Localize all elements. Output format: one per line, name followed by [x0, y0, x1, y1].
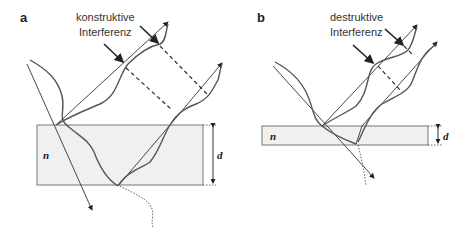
- annotation-line2-a: Interferenz: [79, 26, 132, 38]
- wavefront-line-1-a: [160, 46, 208, 95]
- refractive-index-label-b: n: [270, 130, 276, 142]
- pointer-arrow-2-a: [104, 44, 123, 62]
- annotation-line1-b: destruktive: [330, 11, 383, 23]
- thickness-label-a: d: [217, 149, 223, 161]
- wavefront-line-1-b: [378, 66, 402, 92]
- annotation-line2-b: Interferenz: [330, 26, 383, 38]
- thin-film-slab-a: [37, 125, 203, 185]
- interference-diagram: a konstruktive Interferenz n d b: [0, 0, 470, 227]
- panel-b: b destruktive Interferenz n d: [257, 10, 449, 185]
- thickness-label-b: d: [443, 130, 449, 142]
- panel-label-a: a: [20, 10, 28, 25]
- incident-ray-b: [273, 66, 374, 178]
- wavefront-line-2-a: [126, 68, 172, 110]
- pointer-arrow-1-b: [385, 29, 403, 45]
- panel-a: a konstruktive Interferenz n d: [20, 10, 223, 227]
- refractive-index-label-a: n: [43, 149, 49, 161]
- pointer-arrow-1-a: [140, 26, 158, 43]
- panel-label-b: b: [257, 10, 265, 25]
- annotation-line1-a: konstruktive: [76, 11, 135, 23]
- pointer-arrow-2-b: [353, 45, 373, 63]
- thin-film-slab-b: [262, 126, 428, 145]
- transmitted-ray-a: [120, 186, 153, 227]
